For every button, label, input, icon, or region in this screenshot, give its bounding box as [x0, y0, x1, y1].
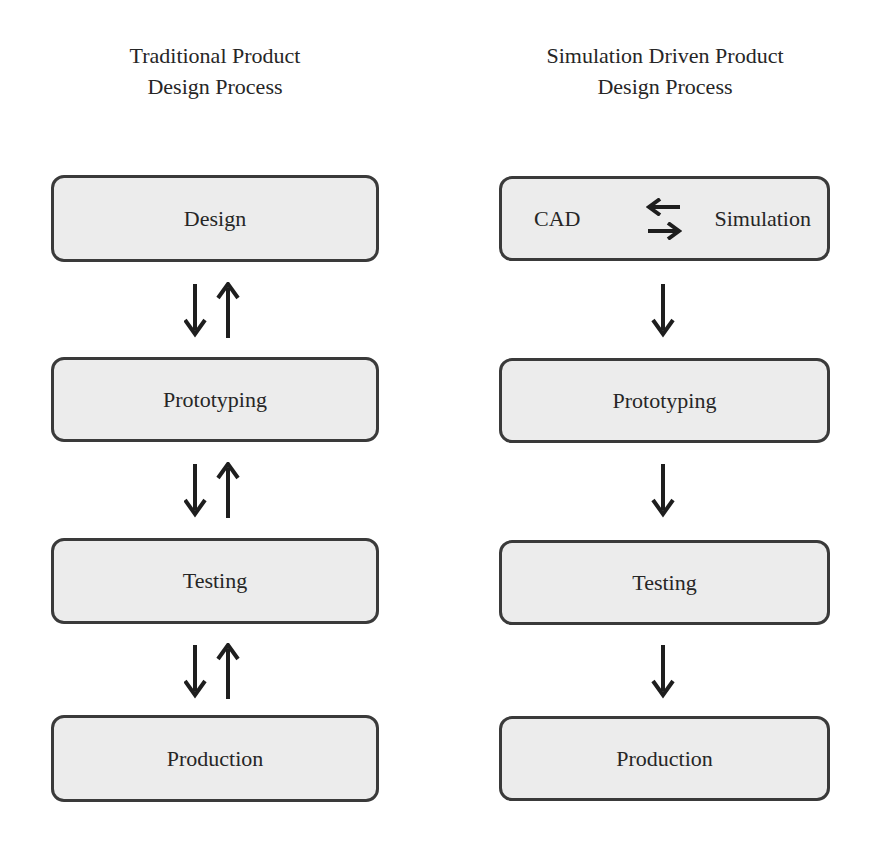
step-production: Production	[499, 716, 830, 801]
bidirectional-arrow-icon	[184, 643, 240, 701]
step-design: Design	[51, 175, 379, 262]
arrow-down-icon	[651, 282, 675, 338]
bidirectional-arrow-icon	[184, 282, 240, 340]
simulation-label: Simulation	[714, 206, 811, 232]
step-testing: Testing	[499, 540, 830, 625]
step-label: Prototyping	[613, 388, 717, 414]
traditional-title-line-1: Traditional Product	[15, 40, 415, 71]
simulation-process-title: Simulation Driven Product Design Process	[465, 40, 865, 102]
arrow-down-icon	[651, 462, 675, 518]
cad-label: CAD	[534, 206, 580, 232]
step-production: Production	[51, 715, 379, 802]
step-prototyping: Prototyping	[499, 358, 830, 443]
step-label: Testing	[183, 568, 247, 594]
step-label: Testing	[632, 570, 696, 596]
arrow-down-icon	[651, 643, 675, 699]
step-cad-simulation: CAD Simulation	[499, 176, 830, 261]
step-label: Prototyping	[163, 387, 267, 413]
arrow-right-icon	[646, 222, 682, 240]
step-testing: Testing	[51, 538, 379, 624]
cad-simulation-exchange-icon	[646, 198, 682, 240]
step-label: Production	[616, 746, 713, 772]
step-label: Production	[167, 746, 264, 772]
simulation-title-line-2: Design Process	[465, 71, 865, 102]
traditional-process-title: Traditional Product Design Process	[15, 40, 415, 102]
step-prototyping: Prototyping	[51, 357, 379, 442]
step-label: Design	[184, 206, 246, 232]
arrow-left-icon	[646, 198, 682, 216]
traditional-title-line-2: Design Process	[15, 71, 415, 102]
bidirectional-arrow-icon	[184, 462, 240, 520]
simulation-title-line-1: Simulation Driven Product	[465, 40, 865, 71]
